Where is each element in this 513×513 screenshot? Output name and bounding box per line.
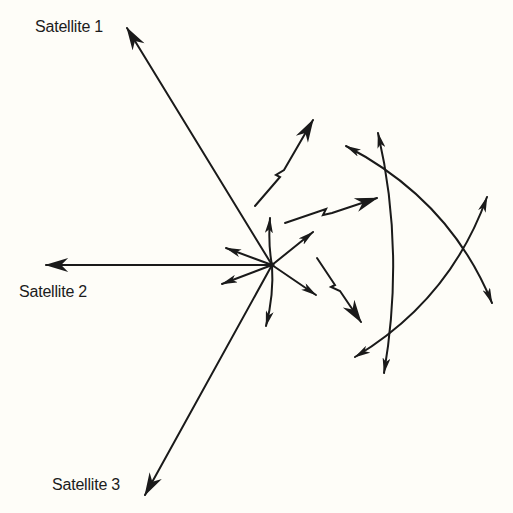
curved-arrow-ascending bbox=[355, 197, 487, 357]
satellite-1-vector bbox=[127, 28, 272, 265]
satellite-1-label: Satellite 1 bbox=[35, 18, 103, 36]
satellite-3-vector bbox=[145, 265, 272, 495]
satellite-3-label: Satellite 3 bbox=[52, 476, 120, 494]
wavy-arrow-middle bbox=[285, 198, 377, 223]
curved-arrow-descending bbox=[346, 146, 492, 303]
satellite-2-label: Satellite 2 bbox=[19, 283, 87, 301]
wavy-arrow-lower bbox=[317, 258, 361, 322]
origin-point bbox=[270, 263, 275, 268]
wavy-arrow-upper bbox=[255, 120, 313, 206]
